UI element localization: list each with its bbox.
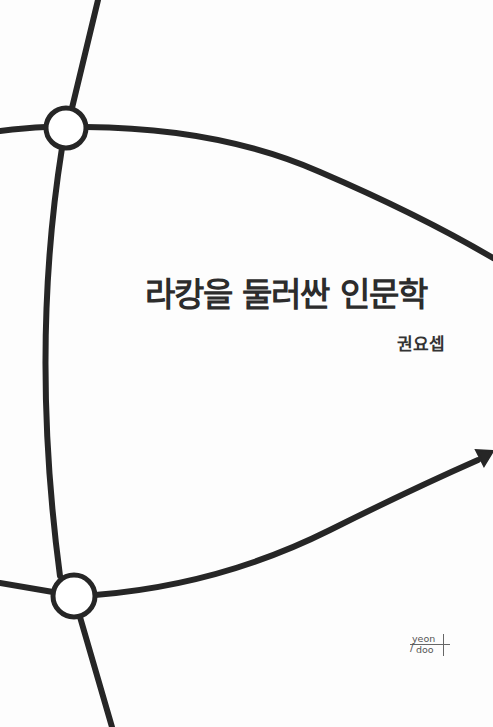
line-diagram	[0, 0, 493, 727]
book-author: 권요셉	[397, 330, 445, 355]
publisher-logo-slash: /	[410, 643, 414, 653]
top-node-icon	[46, 108, 86, 148]
left-arc	[45, 148, 62, 576]
publisher-logo-line2: doo	[410, 645, 450, 655]
bottom-node-icon	[53, 575, 95, 617]
publisher-logo: yeon doo /	[410, 634, 450, 655]
bottom-spoke	[80, 617, 112, 727]
publisher-logo-bar	[443, 634, 444, 656]
book-title: 라캉을 둘러싼 인문학	[145, 268, 447, 316]
top-spoke	[72, 0, 98, 108]
top-left-line	[0, 127, 46, 131]
lower-arc	[95, 460, 478, 595]
upper-arc	[86, 127, 493, 258]
book-cover: 라캉을 둘러싼 인문학 권요셉 yeon doo /	[0, 0, 493, 727]
bottom-left-line	[0, 583, 53, 592]
